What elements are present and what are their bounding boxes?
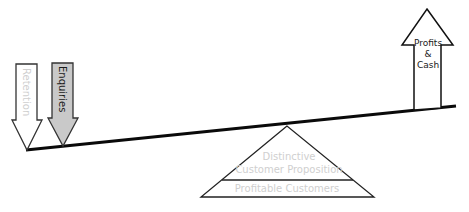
- fulcrum-triangle: Distinctive Customer Proposition Profita…: [201, 126, 374, 197]
- enquiries-label: Enquiries: [57, 66, 68, 112]
- fulcrum-base-label: Profitable Customers: [235, 183, 339, 194]
- profits-label-line3: Cash: [417, 60, 439, 70]
- balance-diagram: Distinctive Customer Proposition Profita…: [0, 0, 469, 212]
- profits-label-line2: &: [424, 49, 431, 59]
- enquiries-arrow: Enquiries: [48, 63, 78, 146]
- profits-label-line1: Profits: [414, 38, 442, 48]
- profits-cash-arrow: Profits & Cash: [402, 9, 453, 110]
- fulcrum-top-label-line1: Distinctive: [263, 151, 316, 162]
- retention-label: Retention: [21, 68, 32, 116]
- balance-beam: [26, 106, 456, 150]
- fulcrum-top-label-line2: Customer Proposition: [235, 164, 342, 175]
- retention-arrow: Retention: [12, 64, 42, 150]
